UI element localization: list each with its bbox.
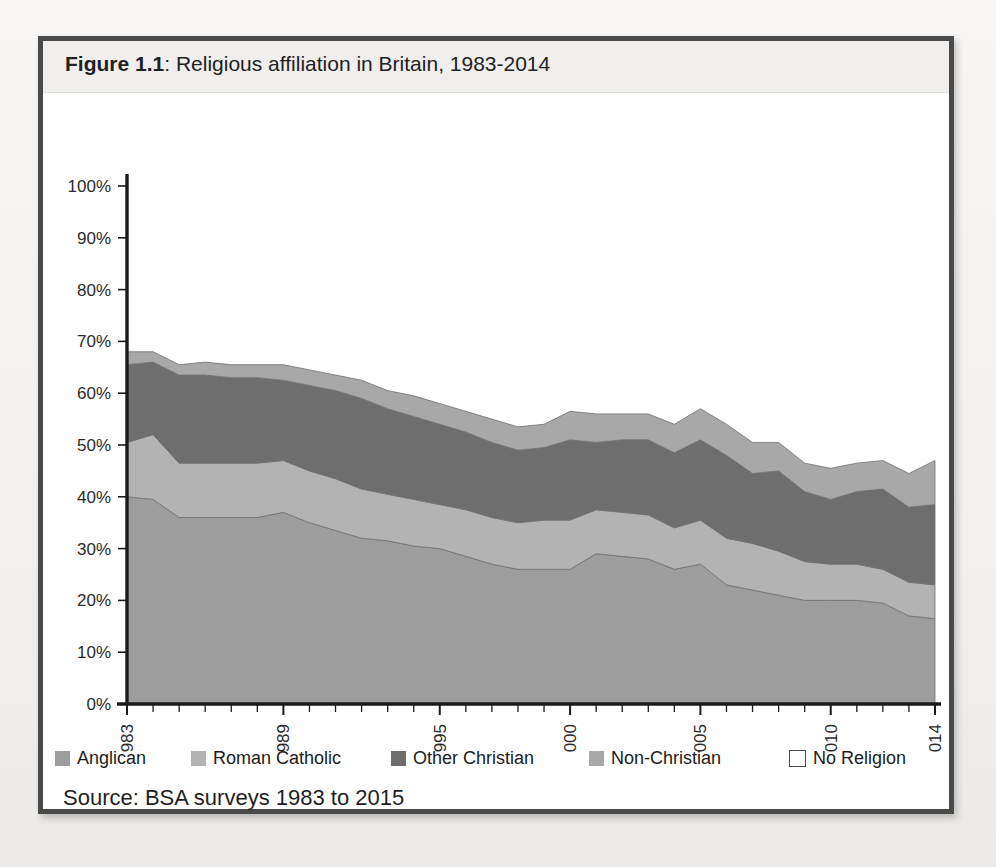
source-note: Source: BSA surveys 1983 to 2015 <box>63 785 404 811</box>
source-bar: Source: BSA surveys 1983 to 2015 <box>43 783 949 823</box>
legend-swatch-icon <box>55 751 70 766</box>
legend-swatch-icon <box>789 750 806 767</box>
legend-label: Non-Christian <box>611 748 721 769</box>
y-axis-ticks: 0%10%20%30%40%50%60%70%80%90%100% <box>68 177 127 714</box>
y-tick-label: 90% <box>77 229 111 248</box>
legend-swatch-icon <box>391 751 406 766</box>
legend-label: Anglican <box>77 748 146 769</box>
y-tick-label: 80% <box>77 281 111 300</box>
legend-label: No Religion <box>813 748 906 769</box>
legend-anglican[interactable]: Anglican <box>55 748 146 769</box>
figure-caption: Figure 1.1: Religious affiliation in Bri… <box>65 52 550 76</box>
y-tick-label: 20% <box>77 591 111 610</box>
y-tick-label: 0% <box>86 695 111 714</box>
legend-label: Roman Catholic <box>213 748 341 769</box>
legend-other-christian[interactable]: Other Christian <box>391 748 534 769</box>
y-tick-label: 30% <box>77 540 111 559</box>
y-tick-label: 10% <box>77 643 111 662</box>
legend-swatch-icon <box>191 751 206 766</box>
y-tick-label: 100% <box>68 177 111 196</box>
chart-area: 0%10%20%30%40%50%60%70%80%90%100% 198319… <box>43 93 949 753</box>
chart-legend: AnglicanRoman CatholicOther ChristianNon… <box>43 741 949 775</box>
y-tick-label: 40% <box>77 488 111 507</box>
legend-non-christian[interactable]: Non-Christian <box>589 748 721 769</box>
figure-title: Religious affiliation in Britain, 1983-2… <box>176 52 550 75</box>
figure-box: Figure 1.1: Religious affiliation in Bri… <box>38 36 954 814</box>
legend-swatch-icon <box>589 751 604 766</box>
y-tick-label: 70% <box>77 332 111 351</box>
y-tick-label: 60% <box>77 384 111 403</box>
figure-number: Figure 1.1 <box>65 52 164 75</box>
legend-label: Other Christian <box>413 748 534 769</box>
legend-roman-catholic[interactable]: Roman Catholic <box>191 748 341 769</box>
figure-caption-bar: Figure 1.1: Religious affiliation in Bri… <box>43 41 949 93</box>
legend-no-religion[interactable]: No Religion <box>789 748 906 769</box>
figure-caption-separator: : <box>164 52 176 75</box>
stacked-area-chart: 0%10%20%30%40%50%60%70%80%90%100% 198319… <box>43 93 949 753</box>
y-tick-label: 50% <box>77 436 111 455</box>
chart-series-group <box>127 352 935 704</box>
page-background: Figure 1.1: Religious affiliation in Bri… <box>0 0 996 867</box>
